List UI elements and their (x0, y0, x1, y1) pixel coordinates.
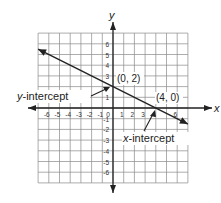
x-axis-right-arrow-icon (204, 105, 212, 111)
coordinate-plane: -6-5-4-3-2-101234665431-1-2-3-4-5-6 x y … (0, 0, 221, 203)
svg-text:6: 6 (105, 41, 109, 48)
x-axis-label: x (213, 102, 220, 114)
svg-text:1: 1 (105, 94, 109, 101)
svg-text:-6: -6 (44, 111, 50, 118)
svg-text:-2: -2 (87, 111, 93, 118)
svg-text:-5: -5 (55, 111, 61, 118)
x-intercept-label: x-intercept (122, 132, 174, 144)
svg-text:-6: -6 (103, 169, 109, 176)
svg-text:4: 4 (105, 62, 109, 69)
y-intercept-label: y-intercept (16, 90, 68, 102)
svg-text:5: 5 (105, 52, 109, 59)
svg-text:-2: -2 (103, 126, 109, 133)
svg-text:2: 2 (131, 111, 135, 118)
x-intercept-point-label: (4, 0) (156, 92, 179, 103)
y-intercept-pointer (91, 89, 106, 96)
svg-text:-1: -1 (103, 116, 109, 123)
svg-text:1: 1 (120, 111, 124, 118)
svg-text:-3: -3 (103, 137, 109, 144)
x-axis-left-arrow-icon (28, 105, 36, 111)
svg-text:3: 3 (141, 111, 145, 118)
svg-text:-3: -3 (76, 111, 82, 118)
svg-text:-5: -5 (103, 159, 109, 166)
y-axis-label: y (108, 9, 116, 21)
y-intercept-point-label: (0, 2) (117, 73, 140, 84)
svg-text:-4: -4 (103, 148, 109, 155)
svg-text:3: 3 (105, 73, 109, 80)
y-axis-down-arrow-icon (110, 185, 116, 193)
svg-text:-4: -4 (65, 111, 71, 118)
y-axis-up-arrow-icon (110, 22, 116, 30)
